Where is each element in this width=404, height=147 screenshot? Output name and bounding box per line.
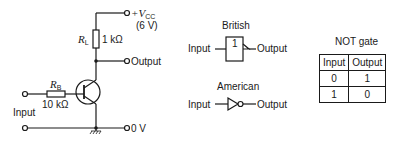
output-junction — [94, 59, 98, 63]
truth-table-header: Input Output — [320, 55, 386, 71]
ground-input-terminal — [23, 126, 28, 131]
table-row: 0 1 — [320, 71, 386, 87]
rl-value: 1 kΩ — [102, 34, 123, 45]
base-resistor — [47, 91, 65, 97]
american-output-label: Output — [257, 99, 287, 110]
british-gate-text: 1 — [232, 38, 238, 49]
british-input-label: Input — [188, 43, 210, 54]
supply-terminal — [125, 11, 130, 16]
truth-table: Input Output 0 1 1 0 — [319, 54, 386, 103]
cell-output: 1 — [349, 71, 386, 87]
truth-table-title: NOT gate — [335, 36, 378, 47]
header-input: Input — [320, 55, 349, 71]
output-terminal — [125, 59, 130, 64]
ground-icon — [90, 131, 101, 134]
transistor-icon — [76, 80, 100, 104]
american-title: American — [217, 81, 259, 92]
table-row: 1 0 — [320, 87, 386, 103]
load-resistor — [93, 30, 99, 48]
input-label: Input — [13, 107, 35, 118]
transistor-collector — [84, 80, 96, 88]
british-title: British — [222, 20, 250, 31]
american-not-gate-icon — [215, 98, 256, 110]
cell-input: 0 — [320, 71, 349, 87]
rb-value: 10 kΩ — [42, 99, 69, 110]
ground-label: 0 V — [131, 123, 146, 134]
output-label: Output — [131, 56, 161, 67]
supply-label: +VCC — [131, 7, 155, 20]
british-output-label: Output — [257, 43, 287, 54]
american-input-label: Input — [188, 99, 210, 110]
input-terminal — [23, 92, 28, 97]
cell-input: 1 — [320, 87, 349, 103]
cell-output: 0 — [349, 87, 386, 103]
ground-output-terminal — [125, 126, 130, 131]
header-output: Output — [349, 55, 386, 71]
rl-label: RL — [77, 33, 89, 46]
transistor-emitter — [84, 96, 96, 104]
rb-label: RB — [49, 78, 62, 91]
supply-value: (6 V) — [136, 20, 158, 31]
ground-junction — [94, 126, 98, 130]
